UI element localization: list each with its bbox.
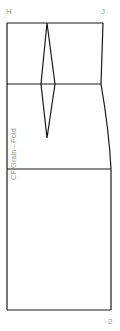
point-label-h: H (6, 8, 12, 16)
side-seam-line (101, 23, 111, 310)
point-label-j: J (101, 8, 105, 16)
dart-shape (41, 23, 55, 138)
pattern-outline (0, 0, 120, 331)
fold-label: CF Grain - Fold (10, 128, 18, 180)
page-number: 2 (108, 318, 112, 326)
